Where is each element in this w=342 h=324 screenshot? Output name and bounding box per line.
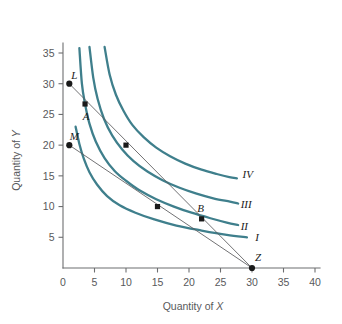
point-marker-M bbox=[66, 142, 72, 148]
y-axis-title-variable: Y bbox=[10, 129, 22, 137]
curve-label-I: I bbox=[254, 231, 260, 243]
point-label-L: L bbox=[70, 69, 77, 81]
curve-label-II: II bbox=[240, 220, 250, 232]
indifference-curve-chart: 0510152025303540 5101520253035 LMABZ III… bbox=[0, 0, 342, 324]
point-label-B: B bbox=[197, 202, 204, 214]
x-tick-label: 15 bbox=[152, 276, 164, 288]
x-axis-ticks: 0510152025303540 bbox=[60, 268, 321, 288]
x-tick-label: 35 bbox=[278, 276, 290, 288]
curve-labels: IIIIIIIV bbox=[240, 168, 260, 243]
indifference-curve-IV bbox=[105, 47, 237, 178]
curve-label-III: III bbox=[240, 198, 253, 210]
point-marker-unlabeled-1 bbox=[123, 143, 128, 148]
x-tick-label: 40 bbox=[309, 276, 321, 288]
y-axis-ticks: 5101520253035 bbox=[43, 47, 63, 243]
point-label-M: M bbox=[69, 130, 80, 142]
x-tick-label: 25 bbox=[215, 276, 227, 288]
y-tick-label: 20 bbox=[43, 139, 55, 151]
y-tick-label: 35 bbox=[43, 47, 55, 59]
y-tick-label: 5 bbox=[49, 231, 55, 243]
y-axis-title: Quantity of Y bbox=[10, 129, 22, 191]
x-axis-title: Quantity of X bbox=[163, 300, 225, 312]
x-axis-title-variable: X bbox=[215, 300, 224, 312]
y-tick-label: 15 bbox=[43, 170, 55, 182]
point-label-Z: Z bbox=[255, 251, 262, 263]
indifference-curve-III bbox=[89, 47, 238, 204]
y-tick-label: 10 bbox=[43, 200, 55, 212]
point-marker-L bbox=[66, 81, 72, 87]
y-tick-label: 30 bbox=[43, 78, 55, 90]
y-tick-label: 25 bbox=[43, 108, 55, 120]
budget-line-MZ bbox=[69, 145, 252, 268]
point-marker-A bbox=[82, 101, 87, 106]
x-tick-label: 5 bbox=[92, 276, 98, 288]
point-label-A: A bbox=[82, 110, 90, 122]
x-tick-label: 10 bbox=[120, 276, 132, 288]
x-tick-label: 20 bbox=[183, 276, 195, 288]
x-tick-label: 30 bbox=[246, 276, 258, 288]
point-marker-B bbox=[199, 216, 204, 221]
point-marker-Z bbox=[249, 265, 255, 271]
chart-canvas: 0510152025303540 5101520253035 LMABZ III… bbox=[0, 0, 342, 324]
point-marker-unlabeled-2 bbox=[155, 204, 160, 209]
x-tick-label: 0 bbox=[60, 276, 66, 288]
indifference-curves bbox=[76, 47, 247, 237]
axes-group bbox=[63, 43, 320, 268]
curve-label-IV: IV bbox=[242, 168, 255, 180]
